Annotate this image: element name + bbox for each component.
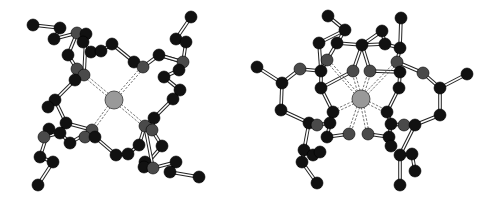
- carbon-atom: [185, 11, 197, 23]
- left-molecule-view: [27, 11, 205, 191]
- heteroatom: [347, 65, 359, 77]
- carbon-atom: [394, 149, 406, 161]
- heteroatom: [147, 162, 159, 174]
- carbon-atom: [47, 156, 59, 168]
- carbon-atom: [54, 127, 66, 139]
- heteroatom: [146, 124, 158, 136]
- carbon-atom: [321, 131, 333, 143]
- carbon-atom: [313, 37, 325, 49]
- carbon-atom: [133, 139, 145, 151]
- heteroatom: [362, 128, 374, 140]
- carbon-atom: [251, 61, 263, 73]
- carbon-atom: [106, 38, 118, 50]
- carbon-atom: [62, 49, 74, 61]
- carbon-atom: [322, 10, 334, 22]
- carbon-atom: [158, 71, 170, 83]
- carbon-atom: [311, 177, 323, 189]
- heteroatom: [417, 67, 429, 79]
- heteroatom: [398, 119, 410, 131]
- carbon-atom: [276, 77, 288, 89]
- heteroatom: [294, 63, 306, 75]
- carbon-atom: [394, 179, 406, 191]
- carbon-atom: [394, 42, 406, 54]
- carbon-atom: [34, 151, 46, 163]
- carbon-atom: [327, 106, 339, 118]
- carbon-atom: [461, 68, 473, 80]
- carbon-atom: [89, 131, 101, 143]
- carbon-atom: [376, 25, 388, 37]
- carbon-atom: [409, 119, 421, 131]
- carbon-atom: [395, 12, 407, 24]
- carbon-atom: [156, 140, 168, 152]
- carbon-atom: [356, 39, 368, 51]
- heteroatom: [311, 119, 323, 131]
- carbon-atom: [193, 171, 205, 183]
- carbon-atom: [180, 36, 192, 48]
- carbon-atom: [315, 65, 327, 77]
- carbon-atom: [164, 166, 176, 178]
- carbon-atom: [48, 33, 60, 45]
- carbon-atom: [110, 149, 122, 161]
- carbon-atom: [275, 104, 287, 116]
- heteroatom: [343, 128, 355, 140]
- carbon-atom: [153, 49, 165, 61]
- carbon-atom: [324, 117, 336, 129]
- heteroatom: [364, 65, 376, 77]
- metal-center-atom: [352, 90, 370, 108]
- right-molecule-view: [251, 10, 473, 191]
- heteroatom: [137, 61, 149, 73]
- carbon-atom: [122, 148, 134, 160]
- carbon-atom: [434, 109, 446, 121]
- molecular-structure-figure: [0, 0, 499, 199]
- carbon-atom: [394, 66, 406, 78]
- carbon-atom: [148, 112, 160, 124]
- carbon-atom: [434, 82, 446, 94]
- metal-center-atom: [105, 91, 123, 109]
- atom-layer: [27, 11, 205, 191]
- carbon-atom: [315, 82, 327, 94]
- carbon-atom: [64, 137, 76, 149]
- molecule-canvas: [0, 0, 499, 199]
- carbon-atom: [385, 118, 397, 130]
- carbon-atom: [27, 19, 39, 31]
- carbon-atom: [95, 45, 107, 57]
- carbon-atom: [77, 36, 89, 48]
- heteroatom: [38, 131, 50, 143]
- carbon-atom: [409, 165, 421, 177]
- carbon-atom: [331, 37, 343, 49]
- carbon-atom: [381, 106, 393, 118]
- carbon-atom: [393, 82, 405, 94]
- carbon-atom: [339, 24, 351, 36]
- carbon-atom: [379, 38, 391, 50]
- carbon-atom: [32, 179, 44, 191]
- carbon-atom: [314, 146, 326, 158]
- carbon-atom: [69, 74, 81, 86]
- carbon-atom: [42, 101, 54, 113]
- carbon-atom: [54, 22, 66, 34]
- carbon-atom: [296, 156, 308, 168]
- carbon-atom: [406, 148, 418, 160]
- heteroatom: [321, 54, 333, 66]
- carbon-atom: [173, 64, 185, 76]
- carbon-atom: [167, 93, 179, 105]
- carbon-atom: [385, 140, 397, 152]
